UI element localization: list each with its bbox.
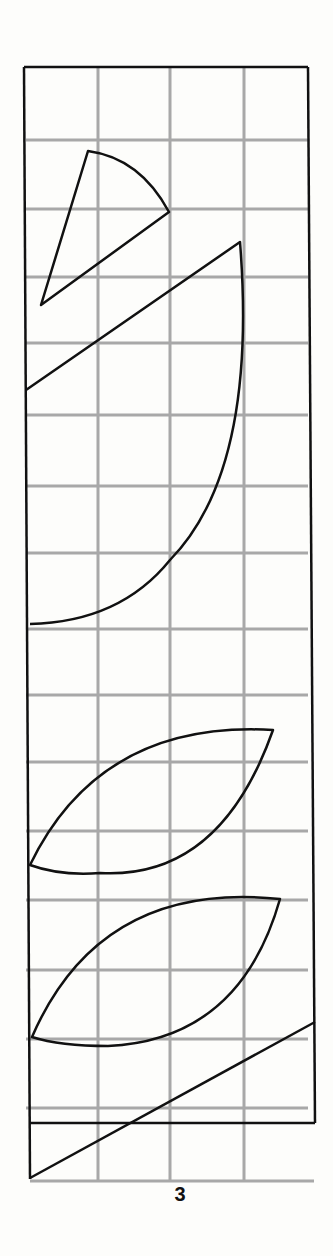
upper-lens (30, 729, 273, 873)
small-sector (41, 151, 169, 305)
page-number: 3 (170, 1183, 190, 1206)
grid (26, 67, 314, 1181)
worksheet-diagram (0, 0, 333, 1256)
large-sector (26, 242, 243, 624)
